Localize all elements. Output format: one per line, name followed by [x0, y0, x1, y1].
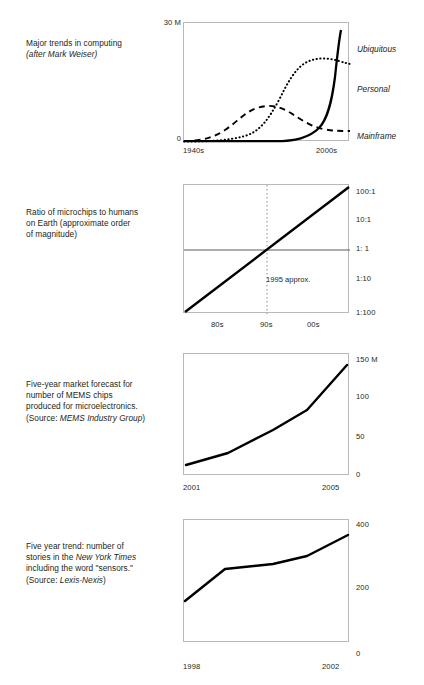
chart-panel-nyt-sensors: Five year trend: number of stories in th…: [0, 507, 424, 685]
caption-line: Five year trend: number of: [26, 541, 124, 551]
caption-line: of magnitude): [26, 229, 77, 239]
caption-chip-human-ratio: Ratio of microchips to humans on Earth (…: [26, 207, 178, 241]
chart-panel-computing-trends: Major trends in computing (after Mark We…: [0, 0, 424, 170]
caption-source-line: (Source: MEMS Industry Group): [26, 413, 145, 423]
y-axis-label-chart2-1to100: 1:100: [356, 308, 376, 317]
y-axis-label-chart4-0: 0: [356, 649, 360, 658]
x-axis-right-label-chart1: 2000s: [316, 146, 337, 155]
x-axis-left-label-chart1: 1940s: [183, 146, 204, 155]
plot-area-mems-forecast: [183, 353, 349, 475]
x-axis-label-chart2-90s: 90s: [260, 320, 273, 329]
caption-line-italic: (after Mark Weiser): [26, 49, 97, 59]
caption-source-italic: Lexis-Nexis: [60, 575, 103, 585]
series-line-nyt: [185, 535, 348, 601]
chart-panel-chip-human-ratio: Ratio of microchips to humans on Earth (…: [0, 170, 424, 342]
mems-forecast-svg: [183, 353, 351, 477]
y-axis-top-label-chart1: 30 M: [155, 18, 181, 27]
y-axis-label-chart2-1to10: 1:10: [356, 274, 371, 283]
y-axis-label-chart4-400: 400: [356, 520, 369, 529]
chart-panel-mems-forecast: Five-year market forecast for number of …: [0, 342, 424, 507]
caption-nyt-sensors: Five year trend: number of stories in th…: [26, 541, 178, 586]
caption-computing-trends: Major trends in computing (after Mark We…: [26, 38, 178, 60]
y-axis-label-chart3-0: 0: [356, 470, 360, 479]
y-axis-label-chart4-200: 200: [356, 583, 369, 592]
series-label-personal: Personal: [357, 84, 390, 94]
x-axis-label-chart2-80s: 80s: [211, 320, 224, 329]
figure-page: Major trends in computing (after Mark We…: [0, 0, 424, 685]
x-axis-left-label-chart4: 1998: [183, 662, 200, 671]
caption-line: on Earth (approximate order: [26, 218, 130, 228]
caption-line: Major trends in computing: [26, 38, 122, 48]
series-line-personal: [184, 59, 350, 142]
x-axis-right-label-chart4: 2002: [322, 662, 339, 671]
caption-mems-forecast: Five-year market forecast for number of …: [26, 379, 178, 424]
nyt-sensors-svg: [183, 519, 351, 644]
caption-source-line: (Source: Lexis-Nexis): [26, 575, 106, 585]
series-label-ubiquitous: Ubiquitous: [357, 44, 396, 54]
y-axis-label-chart3-50: 50: [356, 432, 365, 441]
caption-line: number of MEMS chips: [26, 390, 113, 400]
y-axis-label-chart2-1to1: 1: 1: [356, 244, 369, 253]
plot-area-chip-human-ratio: [183, 184, 349, 313]
caption-source-italic: MEMS Industry Group: [60, 413, 142, 423]
caption-line: stories in the New York Times: [26, 552, 136, 562]
y-axis-label-chart2-100to1: 100:1: [356, 187, 376, 196]
chip-human-ratio-svg: [183, 184, 351, 315]
x-axis-right-label-chart3: 2005: [322, 483, 339, 492]
caption-line: produced for microelectronics.: [26, 401, 138, 411]
x-axis-left-label-chart3: 2001: [183, 483, 200, 492]
y-axis-label-chart3-100: 100: [356, 392, 369, 401]
caption-line: Five-year market forecast for: [26, 379, 133, 389]
plot-area-computing-trends: [183, 22, 349, 141]
series-line-mems: [186, 365, 347, 465]
caption-line: Ratio of microchips to humans: [26, 207, 138, 217]
plot-area-nyt-sensors: [183, 519, 349, 642]
annotation-1995-approx: 1995 approx.: [266, 275, 310, 284]
series-line-mainframe: [184, 106, 350, 141]
y-axis-label-chart2-10to1: 10:1: [356, 215, 371, 224]
caption-line-italic: New York Times: [76, 552, 136, 562]
x-axis-label-chart2-00s: 00s: [307, 320, 320, 329]
caption-line: including the word "sensors.": [26, 563, 133, 573]
y-axis-bottom-label-chart1: 0: [155, 134, 181, 143]
y-axis-label-chart3-150: 150 M: [356, 355, 378, 364]
computing-trends-svg: [183, 22, 351, 143]
series-label-mainframe: Mainframe: [357, 131, 396, 141]
